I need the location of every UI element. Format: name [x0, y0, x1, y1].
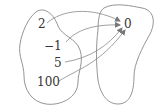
function-mapping-diagram: 2 −1 5 100 0: [0, 0, 161, 112]
domain-element-100: 100: [37, 76, 60, 88]
codomain-element-0: 0: [124, 18, 132, 30]
arrow-2-to-0: [47, 11, 120, 23]
diagram-canvas: [0, 0, 161, 112]
domain-element-2: 2: [38, 18, 46, 30]
arrow-5-to-0: [65, 28, 122, 62]
domain-element-5: 5: [54, 57, 62, 69]
domain-set-outline: [20, 10, 82, 104]
domain-element-neg1: −1: [44, 40, 62, 52]
